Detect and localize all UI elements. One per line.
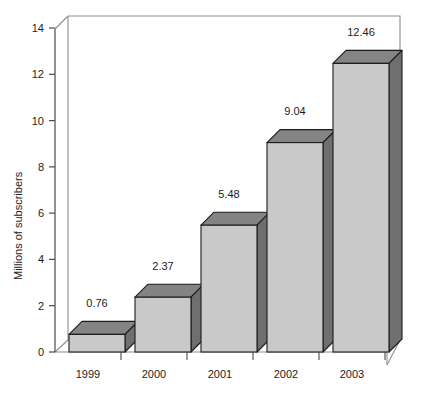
bar-1999 — [69, 321, 138, 352]
x-axis — [121, 352, 385, 360]
bar-side-face — [389, 50, 402, 352]
x-axis-label-2000: 2000 — [142, 368, 166, 380]
bar-front-face — [333, 63, 389, 352]
bar-2000 — [135, 284, 204, 352]
y-tick-label-2: 2 — [38, 300, 44, 312]
y-tick-label-12: 12 — [32, 68, 44, 80]
y-tick-label-8: 8 — [38, 161, 44, 173]
bar-front-face — [267, 143, 323, 352]
bar-front-face — [135, 297, 191, 352]
y-tick-label-10: 10 — [32, 115, 44, 127]
x-axis-label-2001: 2001 — [208, 368, 232, 380]
x-axis-label-1999: 1999 — [76, 368, 100, 380]
value-label-1999: 0.76 — [86, 297, 107, 309]
bar-front-face — [201, 225, 257, 352]
value-label-2002: 9.04 — [284, 105, 305, 117]
bar-2003 — [333, 50, 402, 352]
chart-container: 0 2 4 6 8 10 12 14 Millions of subscri — [0, 0, 424, 393]
y-tick-label-0: 0 — [38, 346, 44, 358]
value-label-2001: 5.48 — [218, 188, 239, 200]
value-label-2003: 12.46 — [347, 26, 375, 38]
y-tick-label-4: 4 — [38, 253, 44, 265]
bar-chart: 0 2 4 6 8 10 12 14 Millions of subscri — [0, 0, 424, 393]
depth-edge-bottom-left — [55, 340, 68, 352]
value-label-2000: 2.37 — [152, 260, 173, 272]
bar-front-face — [69, 334, 125, 352]
y-tick-label-14: 14 — [32, 22, 44, 34]
bar-2002 — [267, 130, 336, 352]
x-axis-label-2002: 2002 — [274, 368, 298, 380]
y-tick-label-6: 6 — [38, 207, 44, 219]
x-axis-label-2003: 2003 — [340, 368, 364, 380]
bar-2001 — [201, 212, 270, 352]
y-axis: 0 2 4 6 8 10 12 14 — [32, 22, 55, 358]
depth-edge-top-left — [55, 16, 68, 29]
y-axis-title: Millions of subscribers — [12, 171, 24, 280]
